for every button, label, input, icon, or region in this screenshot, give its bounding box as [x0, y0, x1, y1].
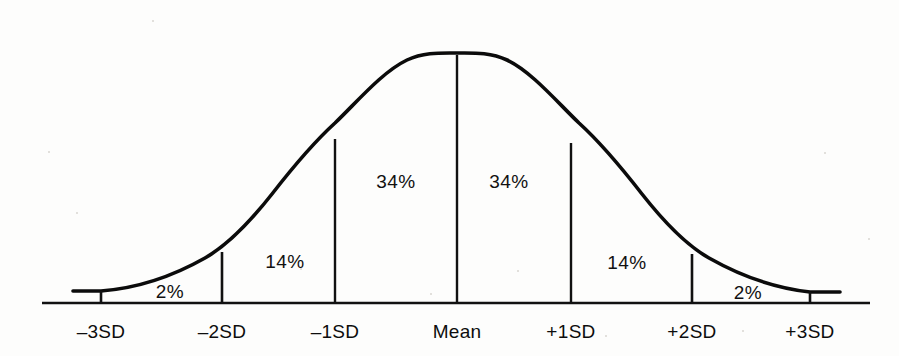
axis-label-minus-2sd: –2SD [198, 321, 247, 343]
normal-distribution-chart [0, 0, 899, 356]
axis-label-minus-3sd: –3SD [77, 321, 126, 343]
axis-label-plus-3sd: +3SD [785, 321, 834, 343]
axis-label-plus-2sd: +2SD [667, 321, 716, 343]
band-label-minus-1sd-to-mean: 34% [376, 171, 416, 193]
band-label-plus-2sd-to-plus-3sd: 2% [734, 282, 762, 304]
axis-label-mean: Mean [433, 321, 482, 343]
band-label-mean-to-plus-1sd: 34% [489, 171, 529, 193]
band-label-minus-3sd-to-minus-2sd: 2% [156, 281, 184, 303]
band-label-plus-1sd-to-plus-2sd: 14% [607, 252, 647, 274]
axis-label-minus-1sd: –1SD [311, 321, 360, 343]
bell-curve-figure: 2% 14% 34% 34% 14% 2% –3SD –2SD –1SD Mea… [0, 0, 899, 356]
axis-label-plus-1sd: +1SD [546, 321, 595, 343]
band-label-minus-2sd-to-minus-1sd: 14% [265, 251, 305, 273]
